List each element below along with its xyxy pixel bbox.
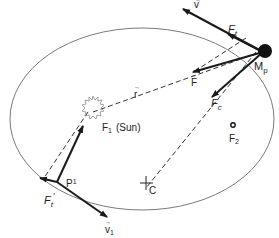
label-c: C [149,185,156,196]
planet-marker [258,44,272,58]
label-r: r [134,89,138,100]
label-f2: F2 [229,133,239,145]
tangential-force-vector-p1 [40,178,57,182]
label-ft1: Ft′ [44,191,55,209]
sun-icon [82,96,104,119]
label-f1-sun: F1(Sun) [102,122,140,134]
svg-text:→: → [195,0,201,3]
svg-text:→: → [191,72,197,78]
velocity-vector-p1 [57,182,107,217]
label-v1: v1 [105,224,114,236]
sun-pull-vector [57,126,83,182]
orbit-diagram: v → Ft Mp r → F → Fc F1(Sun) F2 C P1 Ft′… [0,0,279,238]
label-f: F [191,77,197,88]
svg-text:→: → [134,84,140,90]
focus-f2-marker [231,123,235,127]
label-fc: Fc [211,97,222,112]
tangential-force-vector [228,34,263,52]
svg-text:→: → [105,219,111,225]
label-p1: P1 [66,178,77,189]
